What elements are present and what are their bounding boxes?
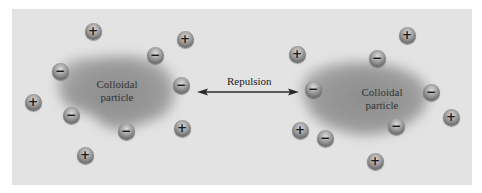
negative-ion-icon: −	[317, 130, 334, 147]
positive-ion-icon: +	[25, 94, 42, 111]
positive-ion-icon: +	[77, 147, 94, 164]
charge-sign: −	[176, 79, 186, 91]
negative-ion-icon: −	[52, 63, 69, 80]
charge-sign: +	[446, 111, 456, 123]
charge-sign: +	[295, 124, 305, 136]
positive-ion-icon: +	[85, 23, 102, 40]
positive-ion-icon: +	[174, 120, 191, 137]
charge-sign: −	[320, 132, 330, 144]
charge-sign: +	[88, 25, 98, 37]
positive-ion-icon: +	[443, 109, 460, 126]
charge-sign: +	[402, 29, 412, 41]
negative-ion-icon: −	[305, 81, 322, 98]
charge-sign: −	[55, 65, 65, 77]
negative-ion-icon: −	[147, 47, 164, 64]
charge-sign: −	[66, 109, 76, 121]
negative-ion-icon: −	[423, 84, 440, 101]
positive-ion-icon: +	[177, 31, 194, 48]
positive-ion-icon: +	[367, 153, 384, 170]
negative-ion-icon: −	[388, 118, 405, 135]
positive-ion-icon: +	[292, 122, 309, 139]
negative-ion-icon: −	[369, 50, 386, 67]
negative-ion-icon: −	[118, 123, 135, 140]
negative-ion-icon: −	[63, 107, 80, 124]
charge-sign: +	[292, 48, 302, 60]
charge-sign: −	[121, 125, 131, 137]
charge-sign: +	[28, 96, 38, 108]
charge-sign: +	[80, 149, 90, 161]
charge-sign: +	[180, 33, 190, 45]
charge-sign: +	[370, 155, 380, 167]
positive-ion-icon: +	[289, 46, 306, 63]
positive-ion-icon: +	[399, 27, 416, 44]
charge-sign: −	[150, 49, 160, 61]
repulsion-label: Repulsion	[227, 75, 272, 87]
charge-sign: −	[372, 52, 382, 64]
charge-sign: +	[177, 122, 187, 134]
charge-sign: −	[391, 120, 401, 132]
negative-ion-icon: −	[173, 77, 190, 94]
charge-sign: −	[308, 83, 318, 95]
charge-sign: −	[426, 86, 436, 98]
